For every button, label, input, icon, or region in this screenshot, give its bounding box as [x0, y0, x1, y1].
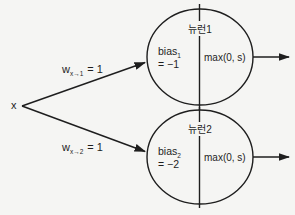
neuron1-activation-label: max(0, s) — [204, 52, 246, 63]
input-arrow-to-neuron2 — [22, 106, 145, 152]
weight-label-2: wx→2= 1 — [61, 141, 103, 155]
neuron1-bias-value: = −1 — [158, 58, 179, 70]
neuron2-bias-label: bias2 — [158, 145, 181, 159]
neuron1-bias-label: bias1 — [158, 45, 181, 59]
weight-label-1: wx→1= 1 — [61, 63, 103, 77]
neuron2-activation-label: max(0, s) — [204, 152, 246, 163]
neuron2-title: 뉴런2 — [188, 124, 212, 135]
neural-network-diagram: x wx→1= 1 wx→2= 1 뉴런1 bias1 = −1 max(0, … — [0, 0, 295, 215]
input-label: x — [11, 99, 17, 111]
neuron1-title: 뉴런1 — [188, 24, 212, 35]
input-arrow-to-neuron1 — [22, 63, 145, 107]
neuron2-bias-value: = −2 — [158, 158, 179, 170]
